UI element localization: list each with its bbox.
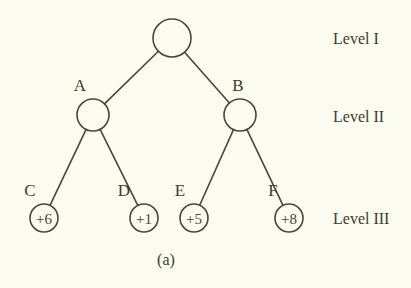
node-value-d: +1 [136,211,152,227]
level-label-level-2: Level II [333,108,384,125]
node-circle-b[interactable] [224,99,256,131]
edge-b-e [200,130,234,206]
node-circle-root[interactable] [153,19,191,57]
edge-root-a [104,51,158,104]
node-label-c: C [24,181,35,200]
node-label-e: E [175,181,185,200]
node-label-f: F [268,181,277,200]
node-circle-a[interactable] [77,99,109,131]
node-value-f: +8 [281,211,297,227]
figure-caption: (a) [157,251,175,269]
edge-root-b [185,52,230,103]
node-label-b: B [232,76,243,95]
level-label-level-1: Level I [333,30,379,47]
node-label-d: D [118,181,130,200]
edge-a-c [50,129,86,205]
node-label-a: A [74,76,87,95]
level-labels-group: Level ILevel IILevel III [333,30,389,227]
nodes-group: +6+1+5+8 [30,19,303,232]
node-value-e: +5 [186,211,202,227]
node-value-c: +6 [36,211,52,227]
game-tree-figure: +6+1+5+8 ABCDEF Level ILevel IILevel III… [0,0,411,288]
level-label-level-3: Level III [333,210,389,227]
tree-diagram-canvas: +6+1+5+8 ABCDEF Level ILevel IILevel III… [0,0,411,288]
